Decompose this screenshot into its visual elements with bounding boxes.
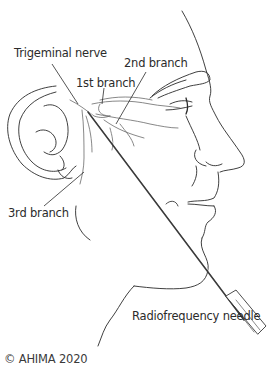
lower-lip xyxy=(202,206,216,238)
neck-line xyxy=(98,286,134,346)
nose-wing xyxy=(194,150,206,166)
nerve-fibers xyxy=(120,124,134,146)
label-3rd-branch: 3rd branch xyxy=(8,206,69,220)
copyright-credit: © AHIMA 2020 xyxy=(4,352,87,366)
label-1st-branch: 1st branch xyxy=(76,76,135,90)
ear-inner-helix xyxy=(19,92,66,171)
label-radiofrequency-needle: Radiofrequency needle xyxy=(132,309,260,323)
upper-lip xyxy=(188,172,219,202)
eyebrow xyxy=(152,71,210,98)
chin-line xyxy=(134,238,208,289)
nerve-branch-1 xyxy=(92,101,180,108)
nerve-branch-3b xyxy=(86,116,92,152)
label-2nd-branch: 2nd branch xyxy=(124,56,188,70)
label-trigeminal-nerve: Trigeminal nerve xyxy=(14,46,107,60)
neck-back xyxy=(76,206,90,240)
eye-upper xyxy=(170,101,192,104)
leader-trigeminal xyxy=(52,64,78,104)
needle-entry xyxy=(166,201,178,206)
ear-antihelix xyxy=(44,105,68,155)
ear-concha xyxy=(36,130,56,152)
nerve-loop xyxy=(98,104,110,116)
ear-tragus xyxy=(60,156,64,170)
nasolabial-fold xyxy=(192,166,197,186)
anatomy-figure: Trigeminal nerve 1st branch 2nd branch 3… xyxy=(0,0,272,370)
face-profile-line xyxy=(182,11,244,172)
eye-lash xyxy=(186,98,188,114)
needle-shaft-highlight xyxy=(89,111,245,319)
cheek-line xyxy=(186,116,200,150)
nerve-branch-1b xyxy=(100,97,152,100)
nostril-line xyxy=(206,162,222,166)
ear-outer xyxy=(8,86,76,179)
mouth-line xyxy=(188,204,214,206)
nerve-fibers-2 xyxy=(110,128,113,150)
